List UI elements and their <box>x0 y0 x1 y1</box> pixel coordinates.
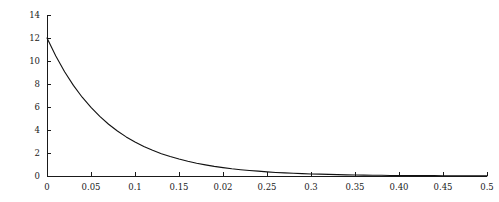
data-curve-decay <box>47 38 487 176</box>
y-tick-label: 12 <box>29 33 40 43</box>
x-tick-label: 0.45 <box>434 182 453 192</box>
y-tick-label: 0 <box>35 171 40 181</box>
x-tick-label: 0.05 <box>82 182 101 192</box>
chart-figure: 00.050.10.150.020.250.30.350.400.450.5 0… <box>0 0 499 202</box>
x-tick-label: 0.15 <box>170 182 189 192</box>
x-tick-label: 0.02 <box>214 182 233 192</box>
y-tick-label: 2 <box>35 148 40 158</box>
x-tick-label: 0.1 <box>128 182 142 192</box>
y-tick-label: 14 <box>29 10 40 20</box>
y-tick-label: 10 <box>29 56 40 66</box>
y-axis-tick-labels: 02468101214 <box>29 10 40 181</box>
y-tick-label: 4 <box>35 125 40 135</box>
x-tick-label: 0.40 <box>390 182 409 192</box>
y-tick-label: 6 <box>35 102 40 112</box>
x-tick-label: 0.35 <box>346 182 365 192</box>
x-tick-label: 0.5 <box>480 182 494 192</box>
x-axis-tick-labels: 00.050.10.150.020.250.30.350.400.450.5 <box>44 182 493 192</box>
plot-area: 00.050.10.150.020.250.30.350.400.450.5 0… <box>0 0 499 202</box>
y-tick-label: 8 <box>35 79 40 89</box>
x-tick-label: 0.25 <box>258 182 277 192</box>
x-tick-label: 0.3 <box>304 182 318 192</box>
x-tick-label: 0 <box>44 182 49 192</box>
